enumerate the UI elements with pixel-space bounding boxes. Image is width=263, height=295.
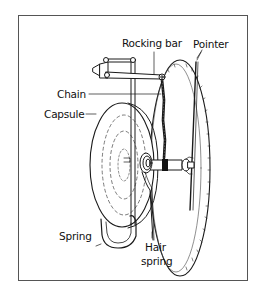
label-rocking-bar: Rocking bar <box>122 38 182 49</box>
label-capsule: Capsule <box>44 109 85 120</box>
label-hair-spring-line1: Hair <box>145 242 166 253</box>
label-hair-spring-line2: spring <box>141 256 173 267</box>
label-pointer: Pointer <box>193 39 228 50</box>
label-chain: Chain <box>57 89 86 100</box>
label-spring: Spring <box>59 231 92 242</box>
